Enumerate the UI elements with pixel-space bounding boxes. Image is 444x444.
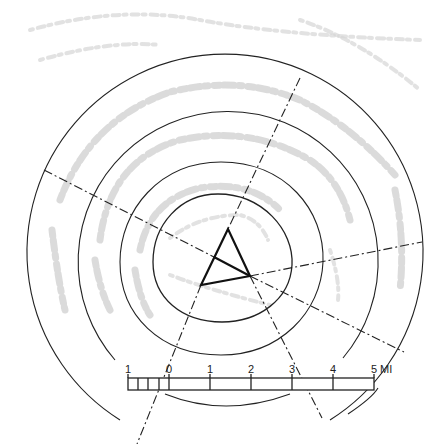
scale-bar: 1 0 1 2 3 4 5 MI — [125, 363, 392, 390]
ring-outer-bottom-right — [348, 388, 378, 414]
terrain-texture — [30, 14, 420, 315]
scale-label-3: 3 — [289, 363, 295, 375]
scale-label-5: 5 — [371, 363, 377, 375]
diagram-canvas: 1 0 1 2 3 4 5 MI — [0, 0, 444, 444]
scale-label-4: 4 — [330, 363, 336, 375]
ring-bottom-arc — [165, 394, 290, 406]
ring-inner — [153, 194, 292, 322]
scale-label-1: 1 — [207, 363, 213, 375]
bearing-line-south — [250, 276, 322, 418]
scale-label-2: 2 — [248, 363, 254, 375]
bearing-line-southeast — [250, 276, 404, 352]
triangulation-triangle — [201, 229, 250, 285]
scale-label-neg1: 1 — [125, 363, 131, 375]
bearing-line-north — [228, 78, 300, 229]
scale-unit: MI — [380, 363, 392, 375]
scale-label-0: 0 — [166, 363, 172, 375]
